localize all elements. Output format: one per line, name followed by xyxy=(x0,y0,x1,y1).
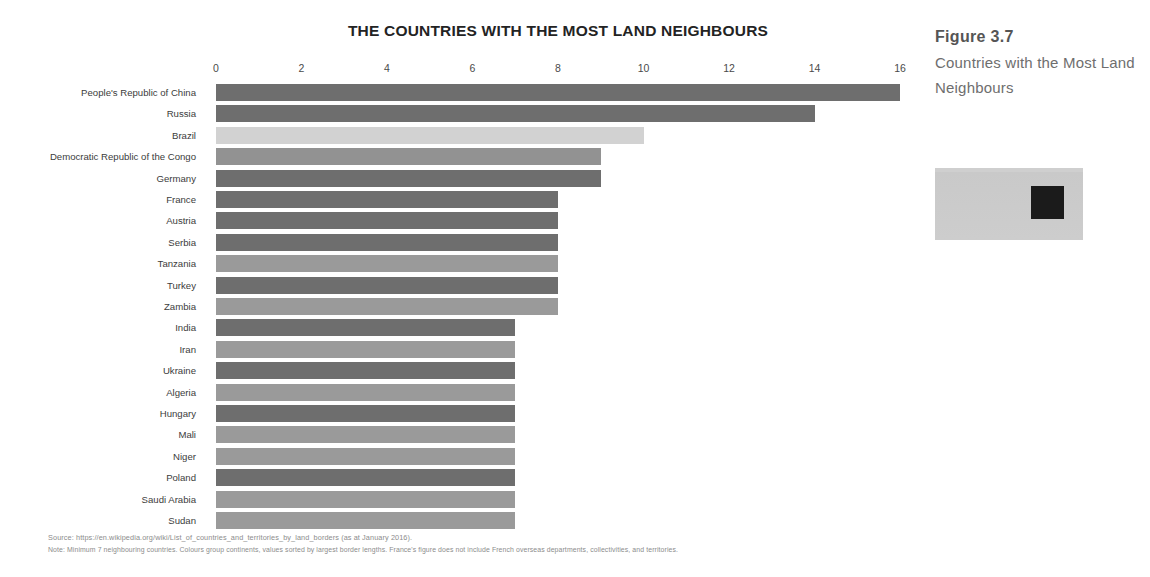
chart-panel: THE COUNTRIES WITH THE MOST LAND NEIGHBO… xyxy=(0,0,915,577)
category-label: Ukraine xyxy=(163,362,196,379)
bar xyxy=(216,170,601,187)
category-label: Democratic Republic of the Congo xyxy=(50,148,196,165)
caption-panel: Figure 3.7 Countries with the Most Land … xyxy=(935,26,1135,100)
x-axis-tick: 10 xyxy=(638,62,650,74)
bar xyxy=(216,448,515,465)
figure-number: Figure 3.7 xyxy=(935,26,1135,48)
x-axis-tick: 14 xyxy=(809,62,821,74)
category-label: Tanzania xyxy=(158,255,196,272)
category-label: Austria xyxy=(166,212,196,229)
category-label: Poland xyxy=(166,469,196,486)
bar xyxy=(216,362,515,379)
x-axis-tick: 8 xyxy=(555,62,561,74)
category-label: Niger xyxy=(173,448,196,465)
figure-page: THE COUNTRIES WITH THE MOST LAND NEIGHBO… xyxy=(0,0,1150,577)
bar xyxy=(216,105,815,122)
category-label: Sudan xyxy=(168,512,196,529)
qr-code-icon xyxy=(1031,186,1064,219)
category-label: People's Republic of China xyxy=(81,84,196,101)
category-label: Hungary xyxy=(160,405,196,422)
bar xyxy=(216,234,558,251)
bar xyxy=(216,405,515,422)
bar xyxy=(216,341,515,358)
thumbnail-surface xyxy=(935,172,1083,240)
x-axis-tick: 0 xyxy=(213,62,219,74)
x-axis: 0246810121416 xyxy=(216,62,900,78)
x-axis-tick: 4 xyxy=(384,62,390,74)
bar xyxy=(216,512,515,529)
bar xyxy=(216,426,515,443)
footnotes: Source: https://en.wikipedia.org/wiki/Li… xyxy=(48,532,1108,556)
category-label: Mali xyxy=(178,426,196,443)
x-axis-tick: 12 xyxy=(723,62,735,74)
category-label: Iran xyxy=(179,341,196,358)
bar xyxy=(216,469,515,486)
bar xyxy=(216,127,644,144)
bar xyxy=(216,298,558,315)
bar xyxy=(216,384,515,401)
category-label: Germany xyxy=(157,170,196,187)
methodology-note: Note: Minimum 7 neighbouring countries. … xyxy=(48,544,1108,556)
bar xyxy=(216,255,558,272)
bars-area xyxy=(216,84,900,526)
source-note: Source: https://en.wikipedia.org/wiki/Li… xyxy=(48,532,1108,544)
x-axis-tick: 16 xyxy=(894,62,906,74)
qr-code-thumbnail[interactable] xyxy=(935,168,1083,240)
category-label: Russia xyxy=(167,105,196,122)
category-label: Brazil xyxy=(172,127,196,144)
bar xyxy=(216,491,515,508)
category-label: Serbia xyxy=(168,234,196,251)
category-label: Turkey xyxy=(167,277,196,294)
bar xyxy=(216,84,900,101)
bar xyxy=(216,148,601,165)
bar xyxy=(216,212,558,229)
x-axis-tick: 2 xyxy=(299,62,305,74)
chart-title: THE COUNTRIES WITH THE MOST LAND NEIGHBO… xyxy=(216,22,900,40)
category-label: Zambia xyxy=(164,298,196,315)
bar xyxy=(216,319,515,336)
category-label: France xyxy=(166,191,196,208)
figure-title: Countries with the Most Land Neighbours xyxy=(935,50,1135,100)
bar xyxy=(216,191,558,208)
category-label: Saudi Arabia xyxy=(142,491,196,508)
bar xyxy=(216,277,558,294)
category-label: Algeria xyxy=(166,384,196,401)
category-label: India xyxy=(175,319,196,336)
x-axis-tick: 6 xyxy=(470,62,476,74)
category-labels: People's Republic of ChinaRussiaBrazilDe… xyxy=(0,84,206,526)
